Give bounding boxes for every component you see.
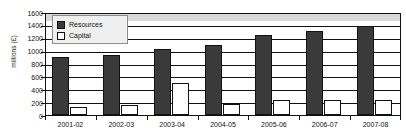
x-axis-tick-labels: 2001-022002-032003-042004-052005-062006-…: [45, 121, 401, 135]
bar-capital-2004-05: [223, 104, 240, 115]
x-axis-tick-mark: [350, 116, 351, 120]
y-axis-tick-mark: [41, 90, 45, 91]
bar-resources-2003-04: [154, 49, 171, 115]
bar-capital-2005-06: [273, 100, 290, 115]
y-axis-tick-labels: 02004006008001000120014001600: [16, 0, 43, 137]
x-axis-tick-label: 2007-08: [363, 121, 389, 128]
legend[interactable]: ResourcesCapital: [52, 15, 128, 44]
y-axis-tick-mark: [41, 116, 45, 117]
bar-capital-2003-04: [172, 83, 189, 115]
x-axis-tick-mark: [248, 116, 249, 120]
bar-capital-2007-08: [375, 100, 392, 115]
x-axis-tick-mark: [45, 116, 46, 120]
x-axis-tick-mark: [299, 116, 300, 120]
bar-chart: millions (£) 020040060080010001200140016…: [0, 0, 406, 137]
bar-group: [199, 14, 250, 115]
bar-capital-2006-07: [324, 100, 341, 115]
bar-resources-2005-06: [255, 35, 272, 115]
bar-group: [351, 14, 402, 115]
bar-resources-2002-03: [103, 55, 120, 115]
bar-resources-2004-05: [205, 45, 222, 115]
bar-resources-2007-08: [357, 26, 374, 115]
y-axis-tick-mark: [41, 39, 45, 40]
y-axis-tick-mark: [41, 52, 45, 53]
x-axis-tick-label: 2002-03: [108, 121, 134, 128]
y-axis-tick-mark: [41, 103, 45, 104]
bar-resources-2006-07: [306, 31, 323, 115]
x-axis-tick-mark: [400, 116, 401, 120]
legend-item-resources[interactable]: Resources: [57, 19, 123, 30]
bar-capital-2001-02: [70, 107, 87, 115]
y-axis-tick-mark: [41, 77, 45, 78]
y-axis-tick-mark: [41, 26, 45, 27]
x-axis-tick-label: 2004-05: [210, 121, 236, 128]
bar-resources-2001-02: [52, 57, 69, 115]
legend-item-label: Resources: [69, 21, 102, 29]
bar-group: [249, 14, 300, 115]
bar-group: [148, 14, 199, 115]
x-axis-tick-mark: [198, 116, 199, 120]
legend-item-capital[interactable]: Capital: [57, 30, 123, 41]
legend-item-label: Capital: [69, 32, 91, 40]
x-axis-tick-label: 2005-06: [261, 121, 287, 128]
y-axis-tick-mark: [41, 13, 45, 14]
x-axis-tick-mark: [96, 116, 97, 120]
y-axis-tick-mark: [41, 65, 45, 66]
x-axis-tick-label: 2006-07: [312, 121, 338, 128]
x-axis-tick-label: 2003-04: [159, 121, 185, 128]
bar-group: [300, 14, 351, 115]
x-axis-tick-label: 2001-02: [58, 121, 84, 128]
bar-capital-2002-03: [121, 105, 138, 115]
empty-white-square-icon: [57, 32, 65, 40]
x-axis-tick-mark: [147, 116, 148, 120]
filled-dark-square-icon: [57, 21, 65, 29]
